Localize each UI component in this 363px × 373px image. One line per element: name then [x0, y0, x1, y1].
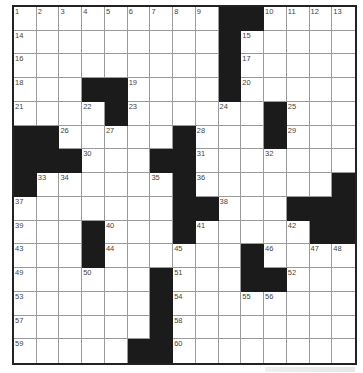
grid-cell[interactable]	[196, 78, 219, 102]
grid-cell[interactable]	[150, 31, 173, 55]
grid-cell[interactable]	[37, 54, 60, 78]
grid-cell[interactable]	[332, 126, 355, 150]
grid-cell[interactable]	[219, 244, 242, 268]
grid-cell[interactable]	[150, 244, 173, 268]
grid-cell[interactable]	[310, 54, 333, 78]
grid-cell[interactable]: 9	[196, 7, 219, 31]
grid-cell[interactable]	[128, 173, 151, 197]
grid-cell[interactable]	[332, 316, 355, 340]
grid-cell[interactable]: 22	[82, 102, 105, 126]
grid-cell[interactable]	[82, 292, 105, 316]
grid-cell[interactable]: 41	[196, 221, 219, 245]
grid-cell[interactable]	[59, 221, 82, 245]
grid-cell[interactable]	[82, 54, 105, 78]
grid-cell[interactable]	[59, 78, 82, 102]
grid-cell[interactable]	[264, 78, 287, 102]
grid-cell[interactable]: 50	[82, 268, 105, 292]
grid-cell[interactable]	[332, 268, 355, 292]
grid-cell[interactable]	[241, 316, 264, 340]
grid-cell[interactable]	[332, 149, 355, 173]
grid-cell[interactable]	[59, 268, 82, 292]
grid-cell[interactable]: 60	[173, 339, 196, 363]
grid-cell[interactable]	[37, 339, 60, 363]
grid-cell[interactable]	[173, 102, 196, 126]
grid-cell[interactable]	[241, 197, 264, 221]
grid-cell[interactable]	[150, 54, 173, 78]
grid-cell[interactable]: 28	[196, 126, 219, 150]
grid-cell[interactable]: 32	[264, 149, 287, 173]
grid-cell[interactable]	[150, 197, 173, 221]
grid-cell[interactable]	[82, 339, 105, 363]
grid-cell[interactable]: 3	[59, 7, 82, 31]
grid-cell[interactable]	[105, 268, 128, 292]
grid-cell[interactable]: 18	[14, 78, 37, 102]
grid-cell[interactable]	[105, 173, 128, 197]
grid-cell[interactable]	[105, 197, 128, 221]
grid-cell[interactable]	[287, 31, 310, 55]
grid-cell[interactable]	[150, 102, 173, 126]
grid-cell[interactable]: 17	[241, 54, 264, 78]
grid-cell[interactable]: 55	[241, 292, 264, 316]
grid-cell[interactable]	[332, 292, 355, 316]
grid-cell[interactable]: 12	[310, 7, 333, 31]
grid-cell[interactable]: 11	[287, 7, 310, 31]
grid-cell[interactable]	[332, 339, 355, 363]
grid-cell[interactable]	[59, 31, 82, 55]
grid-cell[interactable]	[105, 54, 128, 78]
grid-cell[interactable]	[310, 292, 333, 316]
grid-cell[interactable]	[310, 149, 333, 173]
grid-cell[interactable]: 26	[59, 126, 82, 150]
grid-cell[interactable]: 51	[173, 268, 196, 292]
grid-cell[interactable]	[128, 31, 151, 55]
grid-cell[interactable]	[264, 339, 287, 363]
grid-cell[interactable]	[287, 339, 310, 363]
grid-cell[interactable]	[241, 173, 264, 197]
grid-cell[interactable]	[128, 268, 151, 292]
grid-cell[interactable]	[332, 102, 355, 126]
grid-cell[interactable]: 24	[219, 102, 242, 126]
grid-cell[interactable]	[128, 149, 151, 173]
grid-cell[interactable]	[219, 268, 242, 292]
grid-cell[interactable]	[287, 316, 310, 340]
grid-cell[interactable]	[59, 197, 82, 221]
grid-cell[interactable]: 56	[264, 292, 287, 316]
grid-cell[interactable]: 58	[173, 316, 196, 340]
grid-cell[interactable]	[310, 316, 333, 340]
grid-cell[interactable]	[264, 221, 287, 245]
grid-cell[interactable]	[128, 126, 151, 150]
grid-cell[interactable]: 33	[37, 173, 60, 197]
grid-cell[interactable]: 52	[287, 268, 310, 292]
grid-cell[interactable]: 23	[128, 102, 151, 126]
grid-cell[interactable]	[128, 244, 151, 268]
grid-cell[interactable]	[128, 54, 151, 78]
grid-cell[interactable]	[37, 102, 60, 126]
grid-cell[interactable]	[37, 268, 60, 292]
grid-cell[interactable]: 46	[264, 244, 287, 268]
grid-cell[interactable]	[105, 316, 128, 340]
grid-cell[interactable]: 1	[14, 7, 37, 31]
grid-cell[interactable]: 8	[173, 7, 196, 31]
grid-cell[interactable]: 36	[196, 173, 219, 197]
grid-cell[interactable]	[105, 31, 128, 55]
grid-cell[interactable]: 25	[287, 102, 310, 126]
grid-cell[interactable]: 31	[196, 149, 219, 173]
grid-cell[interactable]	[310, 268, 333, 292]
grid-cell[interactable]	[37, 244, 60, 268]
grid-cell[interactable]	[128, 292, 151, 316]
grid-cell[interactable]	[37, 221, 60, 245]
grid-cell[interactable]	[37, 292, 60, 316]
grid-cell[interactable]	[37, 31, 60, 55]
grid-cell[interactable]	[37, 316, 60, 340]
grid-cell[interactable]	[241, 339, 264, 363]
grid-cell[interactable]: 42	[287, 221, 310, 245]
grid-cell[interactable]: 59	[14, 339, 37, 363]
grid-cell[interactable]	[219, 339, 242, 363]
grid-cell[interactable]	[173, 54, 196, 78]
grid-cell[interactable]	[196, 268, 219, 292]
grid-cell[interactable]	[150, 78, 173, 102]
grid-cell[interactable]	[173, 78, 196, 102]
grid-cell[interactable]: 47	[310, 244, 333, 268]
grid-cell[interactable]	[264, 54, 287, 78]
grid-cell[interactable]	[59, 54, 82, 78]
grid-cell[interactable]	[59, 102, 82, 126]
